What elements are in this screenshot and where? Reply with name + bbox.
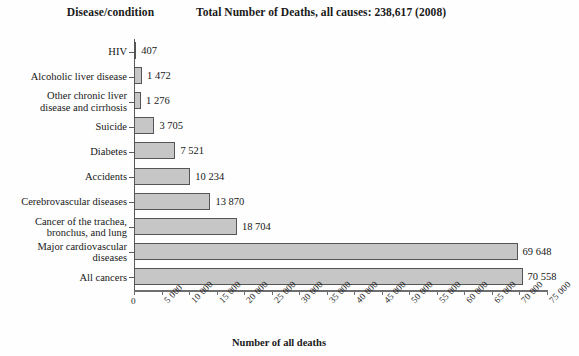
y-axis-label: Accidents (0, 171, 127, 183)
x-axis-tick (162, 290, 163, 295)
y-axis-label: Alcoholic liver disease (0, 71, 127, 83)
y-axis-tick (129, 277, 134, 278)
bar (134, 193, 210, 210)
bar-value-label: 18 704 (242, 218, 271, 236)
x-axis-tick (492, 290, 493, 295)
bar-value-label: 3 705 (159, 117, 183, 135)
y-axis-tick (129, 77, 134, 78)
bar-value-label: 13 870 (215, 193, 244, 211)
y-axis-label: Cancer of the trachea, bronchus, and lun… (0, 216, 127, 239)
x-axis-tick (409, 290, 410, 295)
y-axis-label: Suicide (0, 121, 127, 133)
y-axis-tick (129, 102, 134, 103)
x-axis-tick (354, 290, 355, 295)
x-axis-tick (464, 290, 465, 295)
x-axis-tick (244, 290, 245, 295)
bar-value-label: 407 (141, 42, 157, 60)
bar-row: 3 705Suicide (134, 114, 547, 139)
x-axis-tick (272, 290, 273, 295)
y-axis-tick (129, 152, 134, 153)
bar (134, 92, 141, 109)
bar (134, 142, 175, 159)
y-axis-label: HIV (0, 46, 127, 58)
x-axis-tick (327, 290, 328, 295)
y-axis-label: Cerebrovascular diseases (0, 196, 127, 208)
bar-row: 18 704Cancer of the trachea, bronchus, a… (134, 215, 547, 240)
x-axis-tick (382, 290, 383, 295)
bar (134, 243, 518, 260)
bar-row: 1 276Other chronic liver disease and cir… (134, 89, 547, 114)
y-axis-tick (129, 177, 134, 178)
bar-row: 10 234Accidents (134, 165, 547, 190)
y-axis-tick (129, 202, 134, 203)
bar-row: 1 472Alcoholic liver disease (134, 64, 547, 89)
y-axis-label: All cancers (0, 272, 127, 284)
x-axis-tick (437, 290, 438, 295)
bar (134, 168, 190, 185)
x-axis-tick (299, 290, 300, 295)
bar-value-label: 69 648 (523, 243, 552, 261)
bar-value-label: 1 276 (146, 92, 170, 110)
y-axis-tick (129, 127, 134, 128)
chart-title: Total Number of Deaths, all causes: 238,… (196, 6, 446, 18)
bar (134, 117, 154, 134)
bar-row: 13 870Cerebrovascular diseases (134, 190, 547, 215)
bar-row: 69 648Major cardiovascular diseases (134, 240, 547, 265)
bar (134, 268, 523, 285)
x-axis-tick (519, 290, 520, 295)
bar-row: 7 521Diabetes (134, 139, 547, 164)
bar-value-label: 10 234 (195, 168, 224, 186)
x-axis-tick (547, 290, 548, 295)
bar (134, 42, 136, 59)
y-axis-label: Major cardiovascular diseases (0, 241, 127, 264)
y-axis-tick (129, 252, 134, 253)
x-axis-title: Number of all deaths (232, 337, 326, 348)
bar-chart: Disease/condition Total Number of Deaths… (0, 0, 579, 356)
x-axis-label: 0 (131, 296, 136, 306)
x-axis-tick (134, 290, 135, 295)
bar (134, 67, 142, 84)
bar-value-label: 7 521 (180, 142, 204, 160)
y-axis-label: Diabetes (0, 146, 127, 158)
y-axis-label: Other chronic liver disease and cirrhosi… (0, 90, 127, 113)
category-column-header: Disease/condition (38, 6, 183, 18)
bar-row: 407HIV (134, 39, 547, 64)
y-axis-tick (129, 52, 134, 53)
plot-area: 407HIV1 472Alcoholic liver disease1 276O… (134, 39, 547, 290)
bar (134, 218, 237, 235)
bar-value-label: 1 472 (147, 67, 171, 85)
y-axis-tick (129, 227, 134, 228)
x-axis-tick (189, 290, 190, 295)
x-axis-tick (217, 290, 218, 295)
